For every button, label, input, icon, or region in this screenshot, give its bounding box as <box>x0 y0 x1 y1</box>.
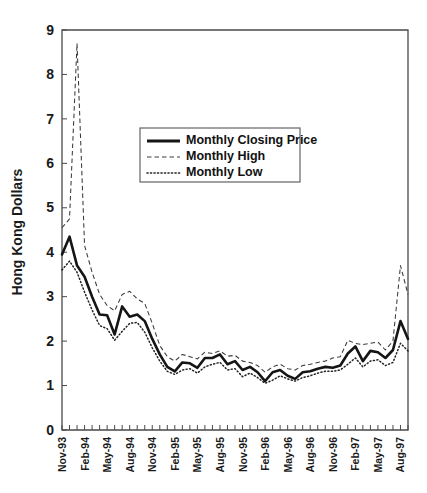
legend-label: Monthly High <box>186 149 265 163</box>
x-tick-label: Aug-95 <box>214 437 226 473</box>
x-axis-ticks: Nov-93Feb-94May-94Aug-94Nov-94Feb-95May-… <box>56 425 408 473</box>
x-tick-label: Aug-96 <box>304 437 316 473</box>
y-tick-label: 7 <box>46 111 54 127</box>
legend-label: Monthly Low <box>186 165 263 179</box>
chart-legend[interactable]: Monthly Closing PriceMonthly HighMonthly… <box>140 128 317 182</box>
y-tick-label: 4 <box>46 244 54 260</box>
plot-frame <box>62 30 408 430</box>
x-tick-label: Aug-97 <box>394 437 406 473</box>
data-series-group <box>62 43 408 383</box>
x-tick-label: Nov-95 <box>237 437 249 472</box>
series-monthly-high <box>62 43 408 372</box>
y-tick-label: 9 <box>46 22 54 38</box>
x-tick-label: Nov-94 <box>146 437 158 472</box>
x-tick-label: Nov-93 <box>56 437 68 472</box>
x-tick-label: Aug-94 <box>124 437 136 473</box>
x-tick-label: Nov-96 <box>327 437 339 472</box>
y-tick-label: 2 <box>46 333 54 349</box>
chart-figure: 0123456789 Nov-93Feb-94May-94Aug-94Nov-9… <box>0 0 427 493</box>
x-tick-label: Feb-96 <box>259 437 271 471</box>
x-tick-label: May-95 <box>191 437 203 473</box>
y-tick-label: 3 <box>46 288 54 304</box>
y-tick-label: 1 <box>46 377 54 393</box>
y-tick-label: 0 <box>46 422 54 438</box>
x-tick-label: May-94 <box>101 437 113 473</box>
y-axis-label: Hong Kong Dollars <box>9 168 25 295</box>
x-tick-label: Feb-94 <box>79 437 91 471</box>
y-tick-label: 6 <box>46 155 54 171</box>
series-monthly-low <box>62 261 408 383</box>
legend-label: Monthly Closing Price <box>186 133 317 147</box>
series-monthly-closing-price <box>62 237 408 381</box>
x-tick-label: May-96 <box>282 437 294 473</box>
y-tick-label: 5 <box>46 199 54 215</box>
x-tick-label: Feb-95 <box>169 437 181 471</box>
x-tick-label: Feb-97 <box>349 437 361 471</box>
y-tick-label: 8 <box>46 66 54 82</box>
y-axis-ticks: 0123456789 <box>46 22 67 438</box>
x-tick-label: May-97 <box>372 437 384 473</box>
line-chart-canvas: 0123456789 Nov-93Feb-94May-94Aug-94Nov-9… <box>0 0 427 493</box>
